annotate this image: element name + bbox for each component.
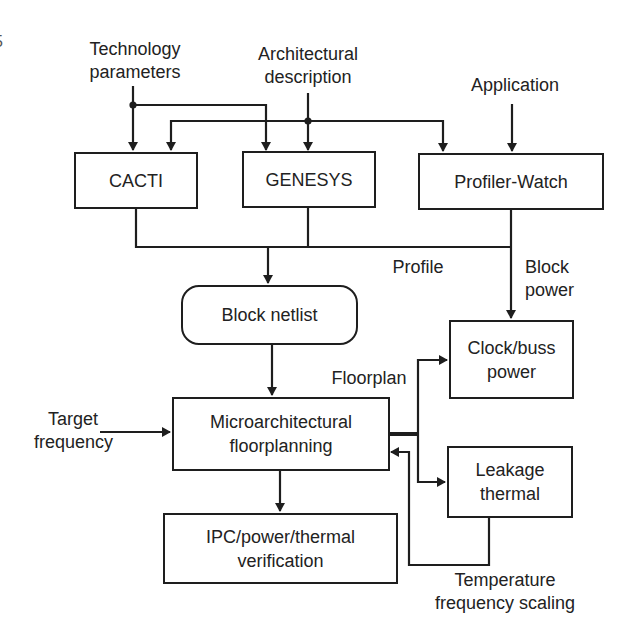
technology-line-2: parameters — [75, 61, 195, 84]
ipc-power-thermal-verification-block: IPC/power/thermal verification — [163, 513, 398, 584]
cacti-block: CACTI — [74, 152, 198, 209]
cacti-bus-line — [136, 208, 511, 247]
block-power-line-1: Block — [525, 256, 574, 279]
application-label: Application — [455, 74, 575, 97]
arch-to-cacti-arrow — [171, 121, 308, 150]
temperature-line-2: frequency scaling — [420, 592, 590, 615]
temperature-frequency-scaling-label: Temperature frequency scaling — [420, 569, 590, 615]
micro-line-1: Microarchitectural — [210, 410, 352, 434]
genesys-block: GENESYS — [242, 151, 376, 208]
floorplan-label: Floorplan — [327, 367, 411, 390]
technology-parameters-label: Technology parameters — [75, 38, 195, 84]
clock-line-2: power — [487, 360, 536, 384]
profiler-watch-block: Profiler-Watch — [418, 153, 604, 210]
profile-label: Profile — [380, 256, 456, 279]
temperature-line-1: Temperature — [420, 569, 590, 592]
floorplan-to-leakage-arrow — [418, 434, 445, 482]
block-power-label: Block power — [525, 256, 574, 302]
ipc-line-1: IPC/power/thermal — [206, 525, 355, 549]
block-netlist-block: Block netlist — [181, 285, 358, 345]
architectural-description-label: Architectural description — [243, 43, 373, 89]
ipc-line-2: verification — [237, 549, 323, 573]
leakage-line-2: thermal — [480, 482, 540, 506]
target-frequency-label: Target frequency — [34, 408, 113, 454]
floorplan-to-clock-arrow — [418, 360, 447, 434]
clock-line-1: Clock/buss — [467, 336, 555, 360]
tech-to-genesys-arrow — [133, 105, 266, 150]
architectural-line-1: Architectural — [243, 43, 373, 66]
arch-to-profiler-arrow — [308, 121, 443, 151]
target-line-1: Target — [34, 408, 113, 431]
target-line-2: frequency — [34, 431, 113, 454]
clock-buss-power-block: Clock/buss power — [449, 320, 574, 399]
microarchitectural-floorplanning-block: Microarchitectural floorplanning — [172, 397, 390, 471]
technology-line-1: Technology — [75, 38, 195, 61]
micro-line-2: floorplanning — [229, 434, 332, 458]
leakage-line-1: Leakage — [475, 458, 544, 482]
block-power-line-2: power — [525, 279, 574, 302]
leakage-thermal-block: Leakage thermal — [447, 446, 573, 518]
architectural-line-2: description — [243, 66, 373, 89]
